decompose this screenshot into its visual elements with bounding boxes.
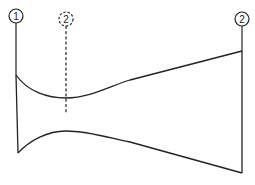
station-2-label: 2 bbox=[239, 14, 245, 25]
inlet-wall bbox=[16, 75, 18, 153]
station-1-label: 1 bbox=[13, 11, 19, 22]
throat-station-marker: 2 bbox=[59, 12, 73, 114]
throat-station-label: 2 bbox=[63, 14, 69, 25]
nozzle-outline bbox=[16, 51, 242, 173]
station-2-marker: 2 bbox=[235, 12, 249, 51]
lower-contour bbox=[18, 131, 242, 173]
station-1-marker: 1 bbox=[9, 9, 23, 75]
nozzle-diagram: 1 2 2 bbox=[0, 0, 255, 185]
upper-contour bbox=[16, 51, 242, 98]
